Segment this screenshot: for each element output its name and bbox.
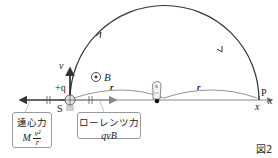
figure-label: 図2 [256, 141, 272, 156]
leader-lines [0, 0, 278, 158]
